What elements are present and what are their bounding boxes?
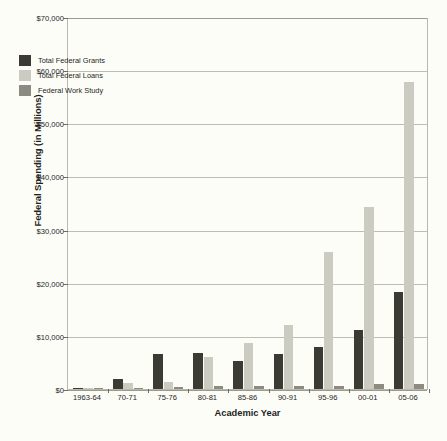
bar	[324, 252, 334, 389]
x-tick-label: 80-81	[198, 393, 217, 402]
y-tick-label: $70,000	[16, 14, 64, 23]
x-tick-label: 1963-64	[73, 393, 101, 402]
y-tick-label: $50,000	[16, 120, 64, 129]
bar	[374, 384, 384, 389]
bar	[153, 354, 163, 389]
x-axis-tick-labels: 1963-6470-7175-7680-8185-8690-9195-9600-…	[67, 393, 428, 407]
legend-swatch-icon	[19, 70, 31, 81]
bar	[284, 325, 294, 389]
bar-group	[148, 19, 188, 389]
bar	[364, 207, 374, 389]
x-tick-label: 00-01	[358, 393, 377, 402]
y-tick-label: $40,000	[16, 173, 64, 182]
bar-group	[309, 19, 349, 389]
bar	[113, 379, 123, 389]
y-tick-label: $30,000	[16, 226, 64, 235]
bar	[274, 354, 284, 389]
bar-group	[269, 19, 309, 389]
legend-swatch-icon	[19, 85, 31, 96]
legend-label: Total Federal Loans	[38, 71, 103, 80]
bar	[193, 353, 203, 389]
legend-swatch-icon	[19, 55, 31, 66]
x-tick-label: 85-86	[238, 393, 257, 402]
chart-figure: Federal Spending (in Millions) $0$10,000…	[0, 0, 447, 441]
bar	[254, 386, 264, 389]
legend-item: Federal Work Study	[19, 84, 105, 97]
bar-group	[349, 19, 389, 389]
legend-label: Total Federal Grants	[38, 56, 105, 65]
bar	[94, 388, 104, 389]
gridline	[68, 390, 427, 391]
bar	[414, 384, 424, 389]
bar	[394, 292, 404, 389]
bar	[164, 382, 174, 389]
bar	[404, 82, 414, 389]
bar	[123, 383, 133, 389]
bar	[354, 330, 364, 389]
bar	[244, 343, 254, 389]
y-tick-label: $0	[16, 386, 64, 395]
chart-legend: Total Federal GrantsTotal Federal LoansF…	[19, 54, 105, 99]
bar	[174, 387, 184, 389]
x-axis-title: Academic Year	[67, 408, 428, 418]
x-tick-label: 70-71	[117, 393, 136, 402]
bar-group	[228, 19, 268, 389]
plot-area	[67, 18, 428, 390]
y-tick-mark	[63, 390, 68, 391]
legend-item: Total Federal Loans	[19, 69, 105, 82]
bar	[73, 388, 83, 389]
x-tick-mark	[429, 389, 430, 393]
bar	[294, 386, 304, 389]
y-tick-label: $20,000	[16, 279, 64, 288]
bar	[214, 386, 224, 389]
bar-group	[389, 19, 429, 389]
bar	[83, 388, 93, 389]
x-tick-label: 95-96	[318, 393, 337, 402]
x-tick-label: 75-76	[158, 393, 177, 402]
bar	[314, 347, 324, 390]
legend-label: Federal Work Study	[38, 86, 103, 95]
bar	[204, 357, 214, 389]
bar	[334, 386, 344, 389]
bar-group	[188, 19, 228, 389]
legend-item: Total Federal Grants	[19, 54, 105, 67]
bar-series-container	[68, 19, 427, 389]
bar-group	[108, 19, 148, 389]
bar	[134, 388, 144, 389]
x-tick-label: 90-91	[278, 393, 297, 402]
bar	[233, 361, 243, 389]
x-tick-label: 05-06	[398, 393, 417, 402]
y-tick-label: $10,000	[16, 332, 64, 341]
